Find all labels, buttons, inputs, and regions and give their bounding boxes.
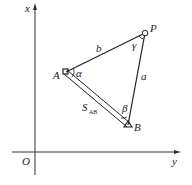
y-axis-arrow-icon [174,150,181,154]
point-p-marker [142,30,148,36]
x-axis-arrow-icon [33,3,37,10]
point-b-label: B [134,121,141,133]
point-a-label: A [52,69,60,81]
baseline-ab-2 [64,74,127,127]
point-p-label: P [149,22,157,34]
vertical-axis-label: x [24,2,30,14]
angle-gamma-label: γ [132,39,137,51]
side-s-subscript: AB [89,109,97,115]
survey-triangle-diagram: x y O A P B b a S AB α β γ [0,0,192,185]
origin-label: O [22,155,30,167]
angle-gamma-arc [139,36,144,39]
side-s-label: S [82,101,88,113]
horizontal-axis-label: y [171,155,177,167]
side-b-label: b [96,42,102,54]
side-a-label: a [141,70,147,82]
angle-beta-label: β [121,102,128,114]
angle-alpha-label: α [76,67,82,79]
